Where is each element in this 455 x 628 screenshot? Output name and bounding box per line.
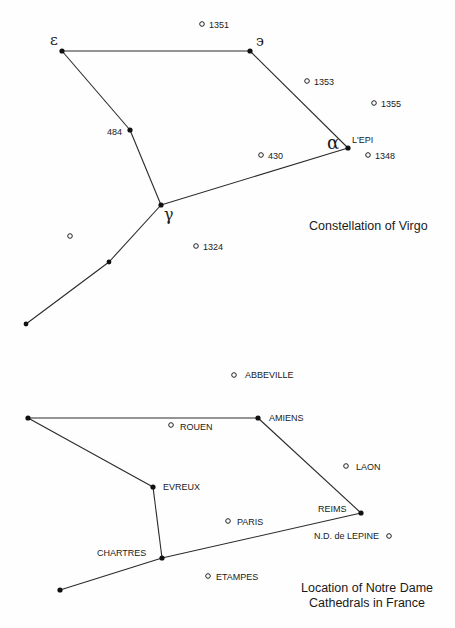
point-etampes [206,574,211,579]
star-gamma [158,202,163,207]
label-lepine: N.D. de LEPINE [314,531,379,541]
point-430 [259,153,264,158]
label-1324: 1324 [203,242,223,252]
label-eta: э [256,33,264,49]
point-laon [344,464,349,469]
point-rouen [169,423,174,428]
edge-alpha-gamma [161,148,348,205]
point-1351 [200,22,205,27]
label-1353: 1353 [314,77,334,87]
label-alpha: α [327,132,339,153]
point-abbeville [232,373,237,378]
edge-epsilon-484 [62,51,130,130]
edge-mid-end [26,262,109,324]
edge-chartres-southwest [60,558,162,590]
label-1348: 1348 [375,151,395,161]
label-abbeville: ABBEVILLE [245,370,294,380]
france-edges [28,418,361,590]
virgo-edges [26,51,348,324]
label-1355: 1355 [381,99,401,109]
virgo-title: Constellation of Virgo [309,219,428,233]
virgo-stars [24,48,351,326]
label-gamma: γ [164,205,174,224]
cathedral-chartres [159,555,164,560]
point-1348 [366,153,371,158]
star-end [24,322,29,327]
point-1324 [194,244,199,249]
label-reims: REIMS [318,504,347,514]
label-paris: PARIS [237,517,263,527]
diagram-svg: ε э 484 α L'EPI γ 1351 1353 1355 430 134… [0,0,455,628]
france-cathedrals [25,415,363,592]
point-paris [226,519,231,524]
point-unlabeled [68,234,73,239]
star-484 [127,127,132,132]
edge-484-gamma [130,130,161,205]
edge-west-evreux [28,418,153,487]
label-rouen: ROUEN [180,422,213,432]
cathedral-evreux [150,484,155,489]
label-epsilon: ε [50,31,58,49]
cathedral-amiens [255,415,260,420]
edge-gamma-mid [109,205,161,262]
label-484: 484 [107,127,122,137]
star-epsilon [59,48,64,53]
label-etampes: ETAMPES [216,572,258,582]
label-laon: LAON [356,462,381,472]
diagram-canvas: ε э 484 α L'EPI γ 1351 1353 1355 430 134… [0,0,455,628]
point-lepine [387,534,392,539]
cathedral-southwest [57,587,62,592]
point-1353 [305,79,310,84]
star-eta [247,48,252,53]
france-other-points: ABBEVILLE ROUEN LAON PARIS N.D. de LEPIN… [169,370,392,582]
france-title-line2: Cathedrals in France [309,596,425,610]
star-mid [107,260,112,265]
label-430: 430 [268,151,283,161]
label-1351: 1351 [209,20,229,30]
edge-evreux-chartres [153,487,162,558]
cathedral-west [25,415,30,420]
point-1355 [372,101,377,106]
cathedral-reims [358,510,363,515]
star-alpha [345,145,350,150]
label-evreux: EVREUX [163,482,200,492]
label-amiens: AMIENS [269,413,304,423]
label-chartres: CHARTRES [97,548,146,558]
france-title-line1: Location of Notre Dame [301,581,433,595]
label-lepi: L'EPI [352,135,373,145]
